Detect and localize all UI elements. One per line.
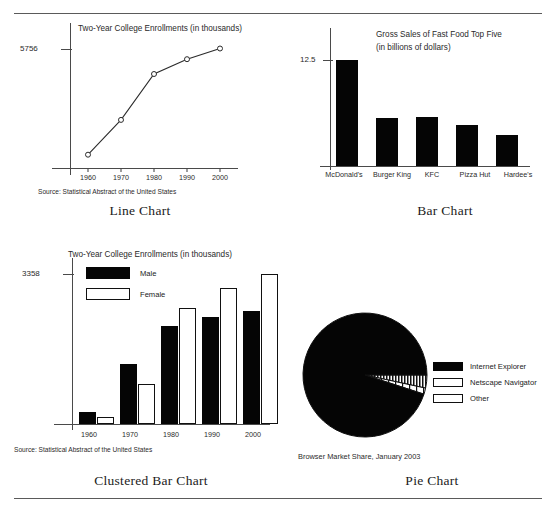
- bar-chart-y-tick-mark: [323, 60, 333, 61]
- clustered-chart-y-tick-mark: [63, 274, 74, 275]
- line-chart-source-note: Source: Statistical Abstract of the Unit…: [38, 188, 176, 195]
- legend-swatch-male: [86, 267, 130, 279]
- line-chart-plot: [0, 18, 280, 228]
- clustered-bar-male-1990: [202, 317, 219, 424]
- clustered-bar-female-2000: [261, 274, 278, 425]
- clustered-bar-chart-caption: Clustered Bar Chart: [86, 473, 216, 489]
- legend-label-internet-explorer: Internet Explorer: [470, 362, 526, 371]
- line-chart-caption: Line Chart: [95, 203, 185, 219]
- legend-swatch-female: [86, 288, 130, 300]
- clustered-chart-title: Two-Year College Enrollments (in thousan…: [68, 250, 232, 259]
- clustered-chart-x-label-1980: 1980: [152, 430, 190, 439]
- legend-label-female: Female: [140, 290, 165, 299]
- bar-chart-subtitle: (in billions of dollars): [376, 43, 451, 52]
- bar-chart-x-axis: [320, 166, 530, 167]
- clustered-chart-y-tick-label: 3358: [22, 269, 40, 278]
- legend-swatch-netscape-navigator: [433, 378, 463, 387]
- line-chart-x-label-1970: 1970: [104, 173, 138, 182]
- clustered-bar-male-2000: [243, 311, 260, 424]
- bar-chart-y-tick-label: 12.5: [300, 55, 316, 64]
- clustered-chart-x-axis: [54, 424, 270, 425]
- line-chart-x-label-1960: 1960: [71, 173, 105, 182]
- bar-pizza-hut: [456, 125, 478, 166]
- clustered-bar-female-1960: [97, 417, 114, 424]
- pie-chart-title: Browser Market Share, January 2003: [298, 452, 420, 461]
- bar-burger-king: [376, 118, 398, 166]
- pie-chart-panel: Internet Explorer Netscape Navigator Oth…: [290, 300, 555, 470]
- bar-chart-caption: Bar Chart: [400, 203, 490, 219]
- clustered-bar-female-1970: [138, 384, 155, 424]
- bar-kfc: [416, 117, 438, 166]
- legend-label-male: Male: [140, 269, 156, 278]
- line-chart-x-label-1980: 1980: [137, 173, 171, 182]
- clustered-bar-chart-panel: Two-Year College Enrollments (in thousan…: [0, 244, 290, 464]
- bar-mcdonalds: [336, 60, 358, 167]
- bar-chart-x-label-pizza-hut: Pizza Hut: [450, 170, 500, 179]
- bar-chart-panel: Gross Sales of Fast Food Top Five (in bi…: [290, 18, 555, 218]
- clustered-chart-source-note: Source: Statistical Abstract of the Unit…: [14, 446, 152, 453]
- clustered-chart-x-label-1960: 1960: [70, 430, 108, 439]
- legend-swatch-internet-explorer: [433, 362, 463, 371]
- clustered-chart-x-label-1970: 1970: [111, 430, 149, 439]
- bottom-divider-rule: [14, 498, 542, 499]
- clustered-bar-female-1990: [220, 288, 237, 424]
- clustered-chart-x-label-2000: 2000: [234, 430, 272, 439]
- pie-chart-caption: Pie Chart: [387, 473, 477, 489]
- clustered-bar-male-1980: [161, 326, 178, 424]
- clustered-bar-female-1980: [179, 308, 196, 425]
- top-divider-rule: [14, 13, 542, 14]
- bar-chart-x-label-kfc: KFC: [412, 170, 452, 179]
- line-chart-panel: Two-Year College Enrollments (in thousan…: [0, 18, 280, 228]
- clustered-bar-male-1960: [79, 412, 96, 425]
- legend-label-netscape-navigator: Netscape Navigator: [470, 378, 537, 387]
- legend-label-other: Other: [470, 394, 489, 403]
- clustered-bar-male-1970: [120, 364, 137, 425]
- bar-chart-x-label-hardees: Hardee's: [494, 170, 542, 179]
- legend-swatch-other: [433, 394, 463, 403]
- bar-chart-y-axis: [330, 28, 331, 170]
- clustered-chart-x-label-1990: 1990: [193, 430, 231, 439]
- line-chart-x-label-1990: 1990: [170, 173, 204, 182]
- bar-hardees: [496, 135, 518, 166]
- bar-chart-title: Gross Sales of Fast Food Top Five: [376, 30, 502, 39]
- clustered-chart-y-axis: [72, 258, 73, 430]
- line-chart-x-label-2000: 2000: [203, 173, 237, 182]
